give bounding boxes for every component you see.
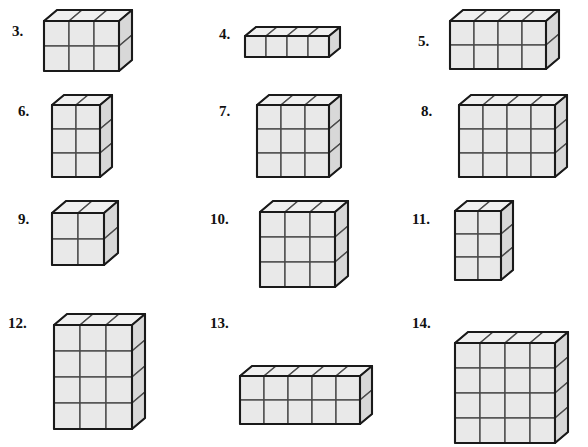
problem-10-number: 10. bbox=[210, 212, 229, 227]
problem-13-number: 13. bbox=[210, 316, 229, 331]
problem-12-number: 12. bbox=[8, 316, 27, 331]
problem-9-number: 9. bbox=[18, 212, 29, 227]
problem-7-number: 7. bbox=[219, 104, 230, 119]
problem-14-cube-figure bbox=[453, 330, 572, 447]
problem-5-number: 5. bbox=[418, 34, 429, 49]
problem-12-cube-figure bbox=[52, 312, 149, 433]
problem-6-cube-figure bbox=[50, 93, 116, 181]
problem-9-cube-figure bbox=[50, 199, 122, 269]
problem-8-number: 8. bbox=[421, 104, 432, 119]
problem-11-number: 11. bbox=[412, 212, 430, 227]
problem-7-cube-figure bbox=[255, 93, 345, 181]
problem-4-cube-figure bbox=[243, 25, 344, 61]
problem-14-number: 14. bbox=[412, 316, 431, 331]
problem-5-cube-figure bbox=[448, 8, 563, 73]
problem-3-number: 3. bbox=[12, 24, 23, 39]
problem-11-cube-figure bbox=[453, 199, 517, 284]
problem-6-number: 6. bbox=[18, 104, 29, 119]
problem-4-number: 4. bbox=[219, 27, 230, 42]
problem-10-cube-figure bbox=[258, 199, 352, 291]
problem-13-cube-figure bbox=[238, 364, 376, 428]
problem-8-cube-figure bbox=[457, 93, 571, 181]
problem-3-cube-figure bbox=[42, 8, 136, 75]
